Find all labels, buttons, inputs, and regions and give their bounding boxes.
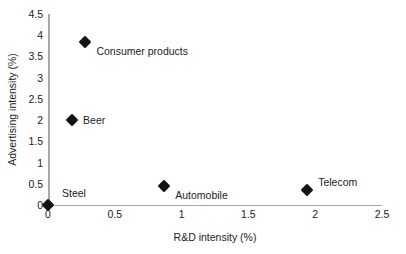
scatter-chart: 00.511.522.533.544.5 00.511.522.5 Consum… xyxy=(0,0,406,254)
x-tick-label: 2.5 xyxy=(375,209,390,220)
y-tick-label: 0.5 xyxy=(28,179,43,190)
data-point-marker[interactable] xyxy=(66,114,79,127)
y-axis-line xyxy=(48,14,50,206)
data-point-marker[interactable] xyxy=(42,199,55,212)
y-tick-label: 3 xyxy=(37,72,43,83)
data-point-label: Beer xyxy=(83,114,105,126)
y-tick-label: 1.5 xyxy=(28,136,43,147)
x-tick-label: 2 xyxy=(312,209,318,220)
data-point-marker[interactable] xyxy=(79,35,92,48)
x-axis-title: R&D intensity (%) xyxy=(48,231,382,243)
x-tick-label: 0.5 xyxy=(107,209,122,220)
y-tick-label: 2.5 xyxy=(28,94,43,105)
data-point-label: Telecom xyxy=(318,176,357,188)
y-tick-label: 3.5 xyxy=(28,51,43,62)
x-tick-label: 1 xyxy=(179,209,185,220)
data-point-marker[interactable] xyxy=(301,184,314,197)
x-tick-label: 1.5 xyxy=(241,209,256,220)
y-tick-label: 4 xyxy=(37,30,43,41)
data-point-marker[interactable] xyxy=(158,180,171,193)
y-tick-label: 1 xyxy=(37,157,43,168)
y-axis-title: Advertising intensity (%) xyxy=(6,14,20,205)
y-tick-label: 2 xyxy=(37,115,43,126)
data-point-label: Steel xyxy=(62,187,86,199)
y-tick-label: 4.5 xyxy=(28,9,43,20)
data-point-label: Consumer products xyxy=(96,45,188,57)
data-point-label: Automobile xyxy=(175,189,228,201)
x-axis-line xyxy=(48,205,382,207)
